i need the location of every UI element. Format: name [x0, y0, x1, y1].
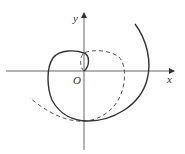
solid-spiral-curve: [48, 24, 149, 121]
y-axis-label: y: [72, 12, 78, 24]
origin-label: O: [73, 74, 81, 86]
spiral-diagram: x y O: [0, 0, 185, 154]
x-axis-label: x: [166, 73, 172, 85]
